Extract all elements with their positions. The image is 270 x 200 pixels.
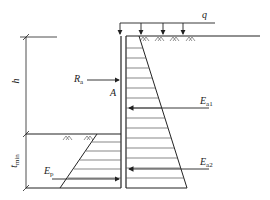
- force-arrows: [52, 80, 209, 179]
- label-q: q: [202, 10, 207, 20]
- active-pressure-diagram: [126, 36, 187, 188]
- surcharge-load-q: [120, 23, 215, 34]
- retaining-wall: [121, 36, 126, 188]
- diagram-canvas: q h tmin Ra A Ea1 Ea2 Ep: [0, 0, 270, 200]
- active-pressure-hatch: [126, 48, 184, 178]
- label-A: A: [110, 88, 116, 98]
- passive-pressure-hatch: [68, 142, 121, 178]
- diagram-drawing: [0, 0, 270, 200]
- label-Ra: Ra: [74, 74, 83, 86]
- label-Ep: Ep: [44, 166, 54, 178]
- label-t-min: tmin: [9, 154, 21, 168]
- label-Ea2: Ea2: [200, 157, 213, 169]
- label-Ea1: Ea1: [200, 96, 213, 108]
- soil-hatch: [63, 37, 195, 140]
- label-h: h: [11, 79, 21, 84]
